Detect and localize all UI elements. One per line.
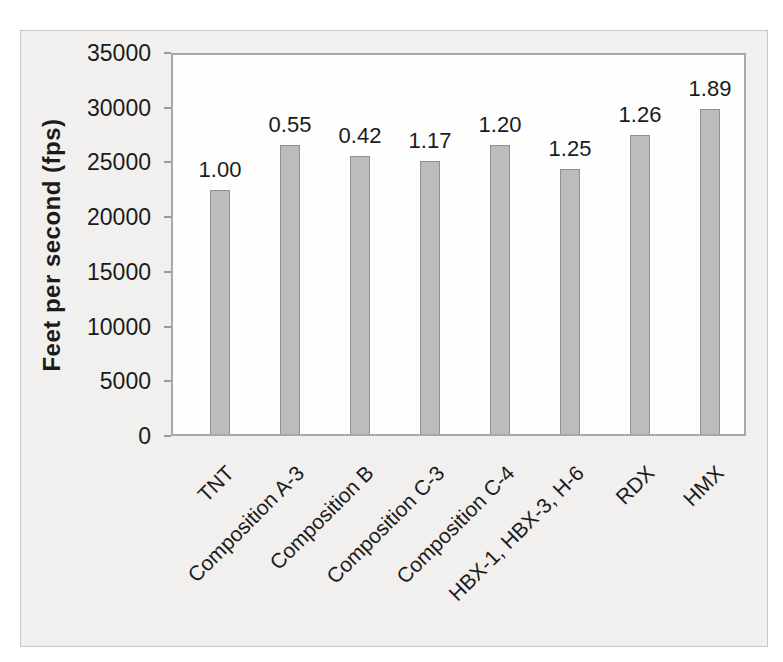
category-label: Composition C-4 bbox=[391, 461, 519, 589]
y-tick-mark bbox=[164, 216, 171, 218]
y-tick-mark bbox=[164, 52, 171, 54]
bar bbox=[630, 135, 650, 436]
bar-value-label: 1.20 bbox=[455, 113, 545, 137]
y-tick-label: 10000 bbox=[87, 314, 151, 340]
category-label: HBX-1, HBX-3, H-6 bbox=[444, 461, 589, 606]
y-tick-label: 5000 bbox=[100, 368, 151, 394]
bar bbox=[420, 161, 440, 436]
bar-value-label: 1.26 bbox=[595, 103, 685, 127]
bar bbox=[280, 145, 300, 436]
y-tick-mark bbox=[164, 435, 171, 437]
y-tick-label: 15000 bbox=[87, 259, 151, 285]
y-tick-mark bbox=[164, 380, 171, 382]
category-label: TNT bbox=[193, 461, 239, 507]
y-tick-label: 0 bbox=[138, 423, 151, 449]
plot-area: 1.000.550.421.171.201.251.261.89 bbox=[171, 53, 746, 436]
bar-chart-figure: Feet per second (fps) 050001000015000200… bbox=[0, 0, 783, 662]
bar-value-label: 1.00 bbox=[175, 158, 265, 182]
y-tick-label: 35000 bbox=[87, 40, 151, 66]
chart-panel: Feet per second (fps) 050001000015000200… bbox=[20, 30, 768, 647]
y-tick-mark bbox=[164, 161, 171, 163]
y-tick-label: 20000 bbox=[87, 204, 151, 230]
category-label: HMX bbox=[679, 461, 729, 511]
bar-value-label: 1.89 bbox=[665, 77, 755, 101]
y-tick-label: 25000 bbox=[87, 149, 151, 175]
bar bbox=[210, 190, 230, 436]
y-axis-title: Feet per second (fps) bbox=[38, 118, 66, 371]
bar bbox=[490, 145, 510, 436]
y-tick-label: 30000 bbox=[87, 95, 151, 121]
bar bbox=[350, 156, 370, 436]
y-tick-mark bbox=[164, 326, 171, 328]
category-label: RDX bbox=[611, 461, 659, 509]
bar-value-label: 1.25 bbox=[525, 137, 615, 161]
bar bbox=[560, 169, 580, 436]
bar bbox=[700, 109, 720, 436]
y-tick-mark bbox=[164, 271, 171, 273]
y-tick-mark bbox=[164, 107, 171, 109]
